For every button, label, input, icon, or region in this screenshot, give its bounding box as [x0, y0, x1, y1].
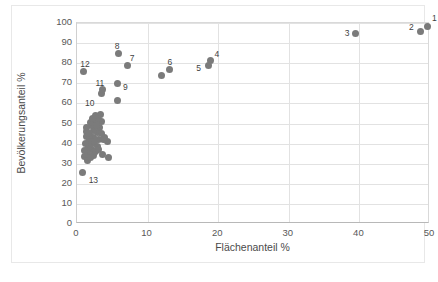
chart-container: Bevölkerungsanteil % 0102030405060708090… [11, 5, 425, 263]
data-point[interactable] [205, 62, 212, 69]
gridline-vertical [359, 23, 360, 222]
data-point-label: 12 [80, 60, 89, 69]
gridline-horizontal [77, 43, 428, 44]
data-point[interactable] [87, 154, 94, 161]
y-axis-tick-label: 0 [34, 218, 72, 228]
data-point-label: 10 [85, 99, 94, 108]
data-point[interactable] [115, 50, 122, 57]
data-point[interactable] [114, 80, 121, 87]
x-axis-tick-label: 20 [197, 228, 237, 238]
gridline-horizontal [77, 23, 428, 24]
x-axis-tick-label: 30 [268, 228, 308, 238]
data-point-label: 13 [89, 176, 98, 185]
data-point-label: 9 [123, 83, 128, 92]
data-point[interactable] [158, 72, 165, 79]
y-axis-tick-label: 50 [34, 118, 72, 128]
data-point-label: 7 [130, 54, 135, 63]
y-axis-tick-label: 70 [34, 77, 72, 87]
y-axis-title: Bevölkerungsanteil % [14, 22, 28, 223]
data-point-label: 11 [95, 79, 104, 88]
gridline-horizontal [77, 204, 428, 205]
gridline-vertical [148, 23, 149, 222]
gridline-horizontal [77, 124, 428, 125]
data-point[interactable] [417, 28, 424, 35]
gridline-horizontal [77, 164, 428, 165]
data-point[interactable] [89, 115, 96, 122]
data-point[interactable] [85, 130, 92, 137]
gridline-horizontal [77, 144, 428, 145]
data-point-label: 2 [409, 23, 414, 32]
data-point-label: 3 [345, 29, 350, 38]
gridline-horizontal [77, 184, 428, 185]
y-axis-tick-label: 90 [34, 37, 72, 47]
data-point-label: 4 [214, 50, 219, 59]
plot-area: 12345678910111213 [76, 22, 429, 223]
y-axis-tick-label: 60 [34, 97, 72, 107]
y-axis-tick-label: 10 [34, 198, 72, 208]
x-axis-title: Flächenanteil % [76, 241, 429, 253]
y-axis-tick-label: 100 [34, 17, 72, 27]
x-axis-tick-label: 40 [338, 228, 378, 238]
x-axis-tick-label: 10 [127, 228, 167, 238]
data-point[interactable] [95, 146, 102, 153]
y-axis-tick-label: 40 [34, 138, 72, 148]
data-point-label: 8 [115, 42, 120, 51]
y-axis-tick-label: 20 [34, 178, 72, 188]
data-point[interactable] [79, 169, 86, 176]
gridline-horizontal [77, 103, 428, 104]
y-axis-tick-labels: 0102030405060708090100 [28, 22, 72, 223]
gridline-vertical [289, 23, 290, 222]
y-axis-tick-label: 30 [34, 158, 72, 168]
y-axis-tick-label: 80 [34, 57, 72, 67]
data-point[interactable] [424, 23, 431, 30]
x-axis-tick-label: 0 [56, 228, 96, 238]
data-point-label: 1 [432, 14, 437, 23]
data-point[interactable] [352, 30, 359, 37]
data-point-label: 6 [167, 58, 172, 67]
y-axis-title-text: Bevölkerungsanteil % [15, 72, 27, 173]
x-axis-tick-label: 50 [409, 228, 438, 238]
x-axis-tick-labels: 01020304050 [76, 228, 429, 242]
gridline-horizontal [77, 83, 428, 84]
data-point-label: 5 [196, 64, 201, 73]
